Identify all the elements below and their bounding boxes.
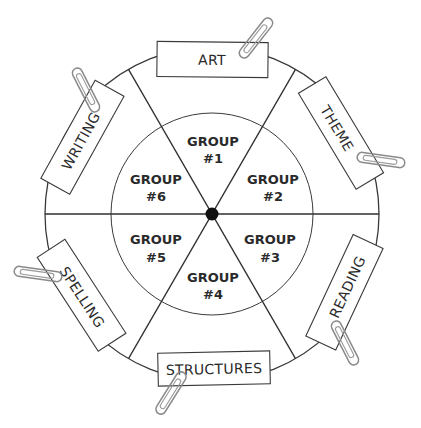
group-3-number: #3 [260,250,280,265]
station-label-structures: STRUCTURES [166,360,263,378]
group-2-label: GROUP [247,172,299,187]
group-5-number: #5 [146,250,166,265]
group-1-label: GROUP [187,134,239,149]
station-tag-reading: READING [306,234,383,349]
group-1: GROUP #1 [187,134,239,166]
center-hub [206,208,219,221]
group-5: GROUP #5 [130,232,182,265]
group-6-label: GROUP [130,172,182,187]
group-3-label: GROUP [244,232,296,247]
station-tag-spelling: SPELLING [37,239,126,351]
station-tag-art: ART [157,41,268,77]
station-tag-writing: WRITING [41,80,124,194]
group-4-label: GROUP [187,270,239,285]
group-2: GROUP #2 [247,172,299,204]
group-6-number: #6 [146,189,166,204]
station-label-art: ART [198,52,226,68]
station-tag-theme: THEME [298,77,383,189]
rotation-wheel-diagram: GROUP #1 GROUP #2 GROUP #3 GROUP #4 GROU… [0,0,421,428]
group-4: GROUP #4 [187,270,239,302]
group-6: GROUP #6 [130,172,182,204]
group-2-number: #2 [263,189,283,204]
group-5-label: GROUP [130,232,182,247]
group-3: GROUP #3 [244,232,296,265]
group-1-number: #1 [203,151,223,166]
group-4-number: #4 [203,287,223,302]
station-tag-structures: STRUCTURES [158,351,271,386]
